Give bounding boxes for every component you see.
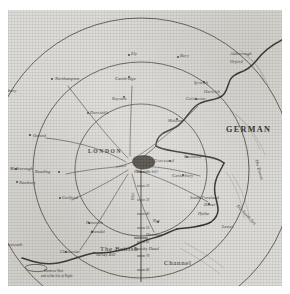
label-german-ocean: GERMAN — [226, 125, 271, 134]
roads — [46, 86, 208, 250]
label-gravesend: Gravesend — [154, 158, 175, 163]
label-the-north-sea: The North Sea — [235, 203, 257, 226]
label-channel: Channel — [164, 259, 192, 267]
scale-tick-80: 80 — [146, 268, 150, 272]
scale-bar — [134, 165, 148, 282]
label-rye: Rye — [152, 218, 160, 223]
label-maldon: Maldon — [167, 118, 182, 123]
label-the-downs: The Downs — [254, 159, 265, 181]
road-to-chichester — [80, 174, 128, 250]
label-beachy-head: Beachy Head — [134, 246, 159, 251]
label-chichester: Chichester — [60, 249, 80, 254]
road-to-cambridge — [130, 86, 132, 156]
label-reading: Reading — [34, 169, 51, 174]
label-ipswich: Ipswich — [193, 80, 208, 85]
label-dunstable: Dunstable — [89, 110, 109, 115]
label-arundel: Arundel — [89, 229, 106, 234]
label-royston: Royston — [111, 96, 127, 101]
london-urban-area — [133, 156, 155, 169]
label-bury: Bury — [180, 53, 189, 58]
label-northampton: Northampton — [54, 76, 80, 81]
label-dover: Dover — [203, 202, 216, 207]
label-portsmouth: tsmouth — [8, 242, 23, 247]
map-frame: LONDON GERMAN The British Channel The Do… — [0, 0, 290, 294]
label-harwich: Harwich — [203, 89, 220, 94]
scale-tick-20: 20 — [146, 184, 150, 188]
label-petworth: Petworth — [85, 220, 103, 225]
label-ely: Ely — [130, 51, 137, 56]
road-to-hastings — [132, 174, 154, 232]
scale-tick-50: 50 — [146, 226, 150, 230]
label-hastings: Hastings — [145, 232, 163, 237]
label-south-foreland: South Foreland — [190, 195, 219, 200]
label-colchester: Colchester — [186, 96, 206, 101]
scale-tick-10: 10 — [146, 170, 150, 174]
label-lewes: Lewes — [221, 224, 234, 229]
coast-hampshire — [22, 253, 94, 264]
label-aldborough: Aldborough — [229, 51, 252, 56]
label-dunnose: Dunnose West — [43, 269, 64, 273]
label-marlborough: Malborough — [9, 166, 33, 171]
label-banbury: bury — [8, 88, 16, 93]
scale-tick-40: 40 — [146, 212, 150, 216]
label-selsey-bill: Selsey Bill — [96, 252, 116, 257]
label-canterbury: Canterbury — [172, 173, 193, 178]
label-isle-of-wight: end of the Isle of Wight — [41, 274, 73, 278]
label-scale-caption: Miles — [131, 192, 135, 201]
scale-tick-60: 60 — [146, 240, 150, 244]
map-engraving: LONDON GERMAN The British Channel The Do… — [8, 10, 282, 286]
scale-tick-30: 30 — [146, 198, 150, 202]
label-oxford: Oxford — [33, 133, 47, 138]
engraved-plate: LONDON GERMAN The British Channel The Do… — [8, 10, 282, 286]
scale-tick-70: 70 — [146, 254, 150, 258]
label-newbury: Newbury — [18, 180, 36, 185]
label-rochester: Rochester — [183, 154, 203, 159]
label-hythe: Hythe — [197, 211, 209, 216]
label-london: LONDON — [88, 148, 122, 154]
label-orford: Orford — [230, 59, 243, 64]
label-guildford: Guilford — [62, 195, 79, 200]
label-cambridge: Cambridge — [115, 76, 136, 81]
